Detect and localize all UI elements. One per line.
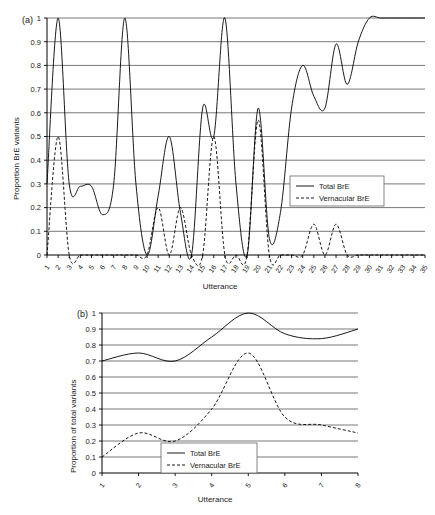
x-tick-label: 17 <box>219 263 229 273</box>
x-tick-label: 9 <box>132 263 140 270</box>
x-tick-label: 3 <box>171 481 179 488</box>
y-tick-label: 0.7 <box>31 85 41 94</box>
x-tick-label: 27 <box>330 263 340 273</box>
chart-b-svg: 00.10.20.30.40.50.60.70.80.9112345678Tot… <box>0 305 435 515</box>
y-tick-label: 0.2 <box>31 203 41 212</box>
x-tick-label: 25 <box>307 263 317 273</box>
x-tick-label: 20 <box>252 263 262 273</box>
x-tick-label: 14 <box>185 263 195 273</box>
x-tick-label: 13 <box>174 263 184 273</box>
y-tick-label: 1 <box>92 309 96 318</box>
y-tick-label: 0.4 <box>31 156 41 165</box>
x-tick-label: 33 <box>396 263 406 273</box>
y-tick-label: 1 <box>37 14 41 23</box>
x-tick-label: 26 <box>319 263 329 273</box>
panel-a-y-axis-label: Proportion BrE variants <box>12 117 21 200</box>
x-tick-label: 28 <box>341 263 351 273</box>
panel-a-x-axis-label: Utterance <box>150 282 290 291</box>
chart-panel-b: (b) Proportion of total variants 00.10.2… <box>0 305 435 515</box>
x-tick-label: 35 <box>419 263 429 273</box>
y-tick-label: 0.6 <box>86 373 96 382</box>
x-tick-label: 1 <box>98 481 106 488</box>
panel-b-y-axis-label: Proportion of total variants <box>69 380 78 473</box>
x-tick-label: 1 <box>43 263 51 270</box>
figure-container: (a) Proportion BrE variants 00.10.20.30.… <box>0 0 435 515</box>
x-tick-label: 23 <box>285 263 295 273</box>
x-tick-label: 5 <box>87 263 95 270</box>
x-tick-label: 6 <box>98 263 106 270</box>
y-tick-label: 0.8 <box>31 61 41 70</box>
legend-label: Total BrE <box>319 182 349 191</box>
panel-b-x-axis-label: Utterance <box>165 495 265 504</box>
x-tick-label: 15 <box>196 263 206 273</box>
x-tick-label: 4 <box>76 263 84 270</box>
y-tick-label: 0 <box>37 251 41 260</box>
series-line-total-bre <box>47 16 425 259</box>
panel-b-tag: (b) <box>77 309 88 319</box>
y-tick-label: 0.4 <box>86 405 96 414</box>
x-tick-label: 7 <box>317 481 325 488</box>
y-tick-label: 0.5 <box>31 132 41 141</box>
page-header-faint-text <box>120 0 420 9</box>
y-tick-label: 0.9 <box>86 325 96 334</box>
x-tick-label: 19 <box>241 263 251 273</box>
x-tick-label: 22 <box>274 263 284 273</box>
x-tick-label: 4 <box>208 481 216 488</box>
x-tick-label: 2 <box>54 263 62 270</box>
chart-a-svg: 00.10.20.30.40.50.60.70.80.9112345678910… <box>0 10 435 295</box>
x-tick-label: 12 <box>163 263 173 273</box>
y-tick-label: 0.9 <box>31 38 41 47</box>
chart-legend: Total BrEVernacular BrE <box>161 443 257 473</box>
x-tick-label: 29 <box>352 263 362 273</box>
y-tick-label: 0.5 <box>86 389 96 398</box>
x-tick-label: 16 <box>207 263 217 273</box>
legend-label: Total BrE <box>190 449 220 458</box>
y-tick-label: 0.3 <box>31 180 41 189</box>
chart-panel-a: (a) Proportion BrE variants 00.10.20.30.… <box>0 10 435 295</box>
x-tick-label: 24 <box>296 263 306 273</box>
y-tick-label: 0 <box>92 469 96 478</box>
y-tick-label: 0.1 <box>31 227 41 236</box>
legend-label: Vernacular BrE <box>319 194 369 203</box>
y-tick-label: 0.7 <box>86 357 96 366</box>
chart-legend: Total BrEVernacular BrE <box>290 176 384 206</box>
x-tick-label: 6 <box>281 481 289 488</box>
y-tick-label: 0.3 <box>86 421 96 430</box>
x-tick-label: 10 <box>141 263 151 273</box>
x-tick-label: 8 <box>121 263 129 270</box>
x-tick-label: 11 <box>152 263 162 273</box>
x-tick-label: 34 <box>408 263 418 273</box>
x-tick-label: 32 <box>385 263 395 273</box>
y-tick-label: 0.8 <box>86 341 96 350</box>
y-tick-label: 0.2 <box>86 437 96 446</box>
series-line-total-bre <box>102 313 358 361</box>
x-tick-label: 5 <box>244 481 252 488</box>
y-tick-label: 0.1 <box>86 453 96 462</box>
x-tick-label: 30 <box>363 263 373 273</box>
x-tick-label: 18 <box>230 263 240 273</box>
panel-a-tag: (a) <box>22 15 33 25</box>
x-tick-label: 8 <box>354 481 362 488</box>
x-tick-label: 7 <box>110 263 118 270</box>
x-tick-label: 31 <box>374 263 384 273</box>
x-tick-label: 2 <box>134 481 142 488</box>
x-tick-label: 3 <box>65 263 73 270</box>
legend-label: Vernacular BrE <box>190 461 240 470</box>
x-tick-label: 21 <box>263 263 273 273</box>
y-tick-label: 0.6 <box>31 109 41 118</box>
